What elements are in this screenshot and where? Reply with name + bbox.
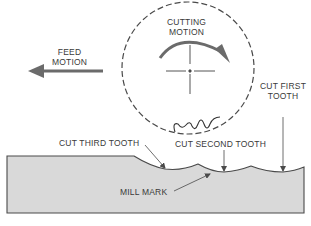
center-crosshair-icon bbox=[166, 45, 215, 94]
feed-motion-label-line1: FEED bbox=[52, 47, 87, 57]
cutting-motion-label-line2: MOTION bbox=[167, 27, 206, 37]
mill-mark-label: MILL MARK bbox=[120, 187, 167, 197]
cutting-motion-label: CUTTING MOTION bbox=[167, 17, 206, 37]
cutting-motion-arrow-icon bbox=[160, 42, 230, 63]
cut-second-tooth-label: CUT SECOND TOOTH bbox=[175, 139, 266, 149]
cut-first-tooth-label-line2: TOOTH bbox=[260, 91, 306, 101]
cut-third-tooth-label: CUT THIRD TOOTH bbox=[59, 138, 139, 148]
cut-first-tooth-label-line1: CUT FIRST bbox=[260, 81, 306, 91]
chip-curl bbox=[174, 117, 220, 132]
cut-first-tooth-label: CUT FIRST TOOTH bbox=[260, 81, 306, 101]
workpiece bbox=[7, 156, 304, 213]
feed-motion-label: FEED MOTION bbox=[52, 47, 87, 67]
feed-motion-label-line2: MOTION bbox=[52, 57, 87, 67]
cutting-motion-label-line1: CUTTING bbox=[167, 17, 206, 27]
